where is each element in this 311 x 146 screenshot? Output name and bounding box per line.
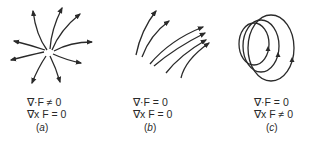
curl-equation: ∇x F = 0 [133,108,172,120]
divergence-equation: ∇·F ≠ 0 [27,96,66,108]
divergence-equation: ∇·F = 0 [254,96,293,108]
panel-caption: (c) [266,122,278,133]
panel-caption: (a) [36,122,48,133]
curl-equation: ∇x F ≠ 0 [254,108,293,120]
flow-lines-diagram [105,0,215,90]
panel-b: ∇·F = 0 ∇x F = 0 (b) [105,0,215,146]
radial-field-diagram [0,0,105,90]
divergence-equation: ∇·F = 0 [133,96,172,108]
circulation-loops-diagram [215,0,311,90]
panel-a: ∇·F ≠ 0 ∇x F = 0 (a) [0,0,105,146]
panel-c: ∇·F = 0 ∇x F ≠ 0 (c) [215,0,311,146]
curl-equation: ∇x F = 0 [27,108,66,120]
panel-caption: (b) [144,122,156,133]
